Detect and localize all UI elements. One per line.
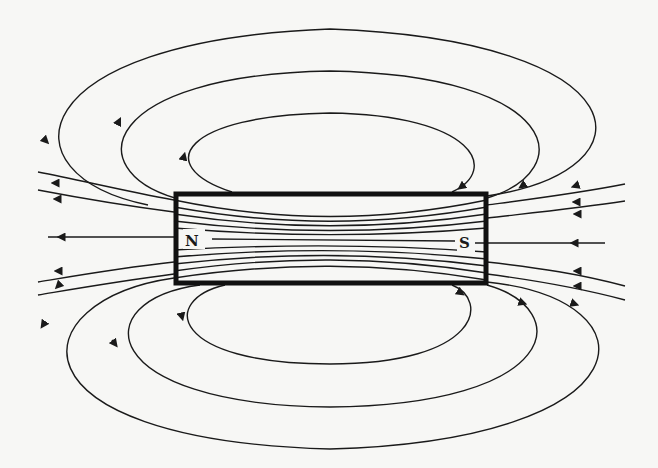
- top-field-loops: [45, 29, 596, 205]
- north-pole-label: N: [185, 232, 199, 250]
- interior-field-lines: [174, 200, 487, 280]
- south-pole-label: S: [459, 234, 470, 252]
- diagram-canvas: N S: [0, 0, 658, 468]
- magnetic-field-diagram: N S: [0, 0, 658, 468]
- bottom-field-loops: [43, 278, 599, 449]
